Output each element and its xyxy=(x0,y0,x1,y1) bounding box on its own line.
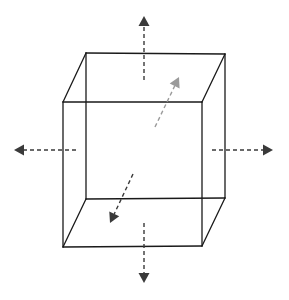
arrow-down-icon xyxy=(139,223,150,283)
arrow-up-icon xyxy=(139,16,150,80)
arrowhead-icon xyxy=(14,145,24,156)
arrowhead-icon xyxy=(139,273,150,283)
cube-wireframe xyxy=(63,53,225,247)
back-bottom-edge xyxy=(86,198,225,199)
arrow-shaft xyxy=(155,86,175,127)
back-top-edge xyxy=(86,53,225,54)
arrowhead-icon xyxy=(139,16,150,26)
arrow-left-icon xyxy=(14,145,76,156)
arrows-group xyxy=(14,16,273,283)
arrow-right-icon xyxy=(212,145,273,156)
arrow-shaft xyxy=(114,174,133,214)
arrowhead-icon xyxy=(263,145,273,156)
cube-diagram xyxy=(0,0,289,300)
front-bottom-edge xyxy=(63,246,202,247)
top-left-depth-edge xyxy=(63,53,86,102)
top-right-depth-edge xyxy=(202,54,225,102)
bottom-right-depth-edge xyxy=(202,198,225,246)
bottom-left-depth-edge xyxy=(63,199,86,247)
